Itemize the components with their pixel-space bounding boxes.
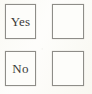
check-mark-no	[53, 52, 83, 85]
yes-no-form: Yes No	[0, 0, 92, 94]
check-mark-yes	[53, 5, 83, 38]
option-label-no: No	[12, 62, 28, 75]
checkbox-no[interactable]	[52, 51, 84, 86]
checkbox-yes[interactable]	[52, 4, 84, 39]
option-row-yes: Yes	[0, 4, 92, 40]
label-box-yes: Yes	[5, 4, 36, 39]
option-row-no: No	[0, 51, 92, 87]
label-box-no: No	[5, 51, 36, 86]
option-label-yes: Yes	[11, 15, 31, 28]
